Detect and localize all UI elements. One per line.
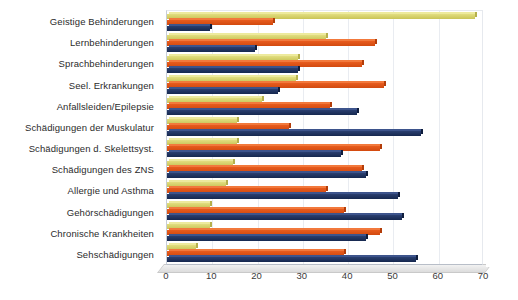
bar-end-cap — [375, 39, 377, 44]
bar-group — [167, 54, 482, 75]
bar-group — [167, 222, 482, 243]
chart-floor-corner — [486, 257, 496, 267]
bar[interactable] — [167, 236, 366, 241]
bar-top-highlight — [169, 228, 380, 230]
bar-group — [167, 75, 482, 96]
bar-end-cap — [296, 75, 298, 80]
bar-group — [167, 159, 482, 180]
bar-end-cap — [226, 180, 228, 185]
bar-top-highlight — [169, 81, 384, 83]
bar-end-cap — [384, 81, 386, 86]
bar[interactable] — [167, 68, 298, 73]
category-label: Allergie und Asthma — [0, 180, 160, 201]
bar-group — [167, 33, 482, 54]
bar-end-cap — [298, 54, 300, 59]
bar-top-highlight — [169, 159, 233, 161]
bar-end-cap — [362, 165, 364, 170]
bar-end-cap — [344, 249, 346, 254]
category-label: Schädigungen des ZNS — [0, 159, 160, 180]
x-axis-tick-label: 30 — [297, 270, 308, 281]
bar-top-highlight — [169, 171, 366, 173]
bar[interactable] — [167, 89, 278, 94]
bar-end-cap — [416, 255, 418, 260]
bar-top-highlight — [169, 96, 262, 98]
value-axis: 010203040506070 — [166, 270, 488, 290]
bar[interactable] — [167, 26, 210, 31]
bar-end-cap — [330, 102, 332, 107]
bar-top-highlight — [169, 222, 210, 224]
bar-end-cap — [255, 45, 257, 50]
bar-end-cap — [341, 150, 343, 155]
bar[interactable] — [167, 173, 366, 178]
bar-end-cap — [210, 201, 212, 206]
bar-top-highlight — [169, 102, 330, 104]
bar-top-highlight — [169, 150, 341, 152]
bar-top-highlight — [169, 33, 326, 35]
bar-group — [167, 96, 482, 117]
bar-end-cap — [210, 222, 212, 227]
bar[interactable] — [167, 47, 255, 52]
bar-top-highlight — [169, 180, 226, 182]
bar[interactable] — [167, 194, 398, 199]
bar-end-cap — [362, 60, 364, 65]
bar-end-cap — [237, 117, 239, 122]
bar-groups — [167, 11, 482, 264]
bar-top-highlight — [169, 255, 416, 257]
bar-group — [167, 12, 482, 33]
bar-top-highlight — [169, 165, 362, 167]
bar-top-highlight — [169, 129, 421, 131]
bar-top-highlight — [169, 45, 255, 47]
bar-top-highlight — [169, 54, 298, 56]
bar-end-cap — [344, 207, 346, 212]
category-label: Seel. Erkrankungen — [0, 75, 160, 96]
x-axis-tick-label: 50 — [387, 270, 398, 281]
bar-top-highlight — [169, 108, 357, 110]
bar-top-highlight — [169, 234, 366, 236]
x-axis-tick-label: 20 — [251, 270, 262, 281]
bar-top-highlight — [169, 75, 296, 77]
bar-end-cap — [421, 129, 423, 134]
bar-group — [167, 138, 482, 159]
category-label: Schädigungen d. Skelettsyst. — [0, 138, 160, 159]
bar-top-highlight — [169, 18, 273, 20]
bar-group — [167, 180, 482, 201]
bar-end-cap — [398, 192, 400, 197]
bar-chart: Geistige BehinderungenLernbehinderungenS… — [0, 0, 518, 300]
x-axis-tick-label: 10 — [206, 270, 217, 281]
bar[interactable] — [167, 215, 402, 220]
bar-top-highlight — [169, 117, 237, 119]
bar-top-highlight — [169, 39, 375, 41]
bar[interactable] — [167, 110, 357, 115]
bar-end-cap — [210, 24, 212, 29]
bar-end-cap — [237, 138, 239, 143]
bar-end-cap — [278, 87, 280, 92]
bar-top-highlight — [169, 243, 196, 245]
bar-top-highlight — [169, 138, 237, 140]
category-label: Sehschädigungen — [0, 244, 160, 265]
bar-top-highlight — [169, 249, 344, 251]
bar-end-cap — [380, 144, 382, 149]
category-axis-labels: Geistige BehinderungenLernbehinderungenS… — [0, 11, 160, 265]
bar[interactable] — [167, 152, 341, 157]
bar-top-highlight — [169, 60, 362, 62]
bar-end-cap — [475, 12, 477, 17]
x-axis-tick-label: 70 — [478, 270, 489, 281]
x-axis-tick-label: 60 — [432, 270, 443, 281]
bar-top-highlight — [169, 192, 398, 194]
plot-wrapper — [166, 10, 488, 266]
bar-group — [167, 201, 482, 222]
bar[interactable] — [167, 131, 421, 136]
bar-end-cap — [196, 243, 198, 248]
category-label: Schädigungen der Muskulatur — [0, 117, 160, 138]
bar-end-cap — [366, 171, 368, 176]
x-axis-tick-label: 40 — [342, 270, 353, 281]
bar-end-cap — [326, 33, 328, 38]
bar-end-cap — [233, 159, 235, 164]
bar-top-highlight — [169, 207, 344, 209]
category-label: Gehörschädigungen — [0, 202, 160, 223]
bar[interactable] — [167, 257, 416, 262]
bar-top-highlight — [169, 87, 278, 89]
bar-top-highlight — [169, 186, 326, 188]
bar-end-cap — [326, 186, 328, 191]
bar-end-cap — [402, 213, 404, 218]
